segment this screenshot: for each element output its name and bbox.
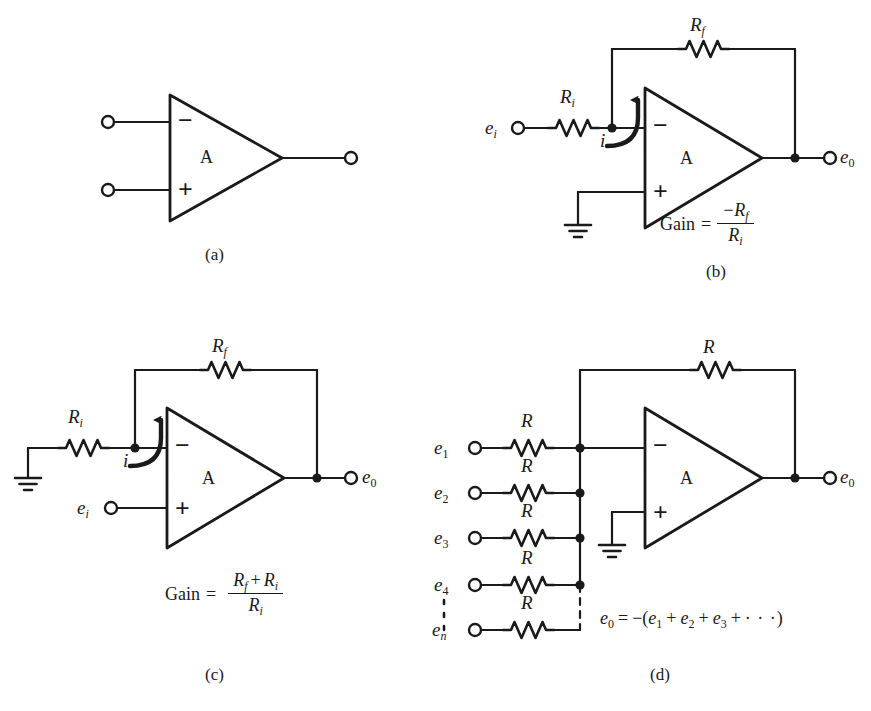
inverting-sign-b: − (653, 113, 668, 139)
summing-junction-dot-b (607, 123, 616, 132)
feedback-resistor-label-b: Rf (690, 14, 705, 39)
output-node-dot-c (312, 473, 321, 482)
output-label-b: e0 (840, 146, 854, 171)
output-terminal-b (824, 152, 836, 164)
input-terminal-d-3 (469, 532, 481, 544)
ground-symbol-c (15, 478, 41, 490)
input-resistor-label-b: Ri (560, 86, 575, 111)
panel-letter-d: (d) (650, 665, 670, 685)
inverting-sign-a: − (178, 108, 193, 134)
input-label-d-n: en (432, 619, 446, 644)
output-terminal-a (345, 152, 357, 164)
feedback-resistor-label-c: Rf (212, 335, 227, 360)
noninverting-sign-d: + (653, 500, 668, 526)
summing-equation-d: e0=−(e1+e2+e3+· · ·) (600, 608, 783, 632)
bus-junction-dot-d-4 (575, 580, 584, 589)
feedback-resistor-d (690, 362, 741, 378)
input-terminal-d-4 (469, 579, 481, 591)
input-label-d-1: e1 (434, 437, 448, 462)
input-terminal-d-n (469, 624, 481, 636)
circuit-diagram-svg (0, 0, 871, 711)
bus-junction-dot-d-3 (575, 533, 584, 542)
inverting-sign-d: − (653, 433, 668, 459)
feedback-resistor-c (200, 362, 251, 378)
input-resistor-label-d-4: R (521, 547, 533, 569)
input-resistor-label-d-1: R (521, 410, 533, 432)
input-resistor-label-d-n: R (521, 592, 533, 614)
ground-symbol-d (599, 545, 625, 557)
output-label-d: e0 (840, 466, 854, 491)
panel-a-circuit (102, 95, 357, 221)
amp-label-b: A (680, 148, 693, 169)
input-resistor-d-2 (503, 485, 554, 501)
input-resistor-label-d-2: R (521, 455, 533, 477)
gain-fraction-b: −Rf Ri (717, 200, 754, 249)
input-label-c: ei (77, 497, 89, 522)
inverting-input-terminal-a (102, 116, 114, 128)
amp-label-c: A (202, 468, 215, 489)
input-label-d-3: e3 (434, 527, 448, 552)
input-terminal-b (512, 122, 524, 134)
gain-formula-b: Gain = −Rf Ri (660, 200, 754, 249)
gain-formula-c: Gain = Rf+Ri Ri (165, 570, 283, 619)
current-label-c: i (123, 450, 128, 472)
current-label-b: i (600, 130, 605, 152)
input-terminal-d-2 (469, 487, 481, 499)
input-resistor-c (58, 440, 109, 456)
input-label-b: ei (485, 117, 497, 142)
input-resistor-d-4 (503, 577, 554, 593)
noninverting-sign-c: + (175, 496, 190, 522)
output-label-c: e0 (362, 466, 376, 491)
gain-fraction-c: Rf+Ri Ri (228, 570, 283, 619)
input-resistor-b (548, 120, 599, 136)
output-node-dot-b (790, 153, 799, 162)
panel-letter-a: (a) (205, 245, 224, 265)
op-amp-figure: − + A (a) − + A ei Ri Rf i e0 Gain = −Rf… (0, 0, 871, 711)
feedback-resistor-b (678, 41, 729, 57)
inverting-sign-c: − (175, 433, 190, 459)
noninverting-sign-a: + (178, 177, 193, 203)
panel-letter-b: (b) (706, 262, 726, 282)
summing-junction-dot-c (130, 443, 139, 452)
panel-d-circuit (444, 362, 836, 638)
output-node-dot-d (790, 473, 799, 482)
bus-junction-dot-d-2 (575, 488, 584, 497)
amp-label-d: A (680, 468, 693, 489)
input-label-d-2: e2 (434, 482, 448, 507)
feedback-resistor-label-d: R (703, 336, 715, 358)
input-resistor-d-n (503, 622, 554, 638)
input-resistor-d-3 (503, 530, 554, 546)
input-terminal-d-1 (469, 442, 481, 454)
output-terminal-c (345, 472, 357, 484)
output-terminal-d (824, 472, 836, 484)
ground-symbol-b (565, 225, 591, 237)
op-amp-triangle-d (645, 408, 762, 548)
panel-letter-c: (c) (205, 665, 224, 685)
amp-label-a: A (200, 147, 213, 168)
input-label-d-4: e4 (434, 574, 448, 599)
noninverting-input-terminal-a (102, 184, 114, 196)
input-resistor-label-d-3: R (521, 500, 533, 522)
input-resistor-label-c: Ri (68, 406, 83, 431)
input-terminal-c (105, 502, 117, 514)
input-resistor-d-1 (503, 440, 554, 456)
op-amp-triangle-c (167, 408, 284, 548)
